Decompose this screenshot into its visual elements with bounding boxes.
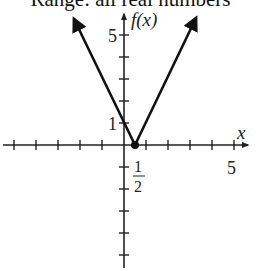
y-axis xyxy=(119,14,129,268)
graph: 5 1 f(x) x 5 1 2 xyxy=(0,0,261,271)
function-curve xyxy=(74,18,196,149)
y-axis-label: f(x) xyxy=(131,9,157,31)
x-axis xyxy=(3,140,248,150)
vertex-point xyxy=(131,141,139,149)
x-axis-label: x xyxy=(236,122,246,143)
y-tick-label-5: 5 xyxy=(108,26,117,46)
svg-text:1: 1 xyxy=(134,158,142,175)
x-tick-label-half: 1 2 xyxy=(133,158,145,195)
y-tick-label-1: 1 xyxy=(108,114,117,134)
x-tick-label-5: 5 xyxy=(227,158,236,178)
svg-text:2: 2 xyxy=(134,178,142,195)
